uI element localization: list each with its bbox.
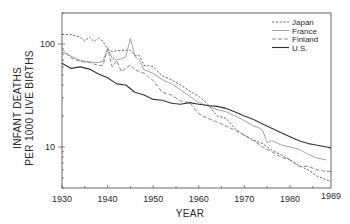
x-tick-label: 1989 xyxy=(321,191,341,201)
x-axis-title: YEAR xyxy=(176,208,204,219)
chart-canvas: 10100 1930194019501960197019801989 Japan… xyxy=(0,0,350,224)
x-tick-label: 1940 xyxy=(98,194,118,204)
series-layer xyxy=(62,34,331,181)
x-tick-label: 1970 xyxy=(234,194,254,204)
series-line-finland xyxy=(62,49,331,172)
series-line-japan xyxy=(62,34,331,181)
legend: JapanFranceFinlandU.S. xyxy=(272,18,318,53)
x-tick-label: 1950 xyxy=(143,194,163,204)
x-tick-label: 1930 xyxy=(52,194,72,204)
x-tick-label: 1980 xyxy=(280,194,300,204)
x-tick-label: 1960 xyxy=(189,194,209,204)
y-axis-title-line-2: PER 1000 LIVE BIRTHS xyxy=(24,50,35,165)
y-tick-label: 10 xyxy=(45,142,55,152)
y-axis: 10100 xyxy=(40,13,65,188)
legend-label: U.S. xyxy=(292,44,308,53)
y-axis-title-line-1: INFANT DEATHS xyxy=(12,67,23,149)
y-tick-label: 100 xyxy=(40,39,55,49)
series-line-us xyxy=(62,63,331,148)
series-line-france xyxy=(62,38,326,160)
infant-mortality-chart: 10100 1930194019501960197019801989 Japan… xyxy=(0,0,350,224)
